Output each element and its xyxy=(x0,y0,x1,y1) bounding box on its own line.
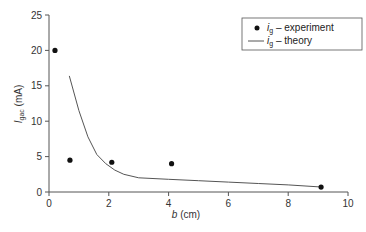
legend-marker-icon xyxy=(255,26,260,31)
svg-text:Igac (mA): Igac (mA) xyxy=(13,85,26,124)
svg-text:b (cm): b (cm) xyxy=(172,209,200,220)
y-axis-sub: gac xyxy=(18,109,26,121)
chart: 02468100510152025 b (cm) Igac (mA) ig – … xyxy=(0,0,366,232)
experiment-points xyxy=(52,48,323,190)
x-tick-label: 8 xyxy=(285,198,291,209)
x-tick-label: 6 xyxy=(226,198,232,209)
x-axis-label: b (cm) xyxy=(172,209,200,220)
theory-curve xyxy=(69,76,321,187)
data-point xyxy=(67,158,72,163)
y-tick-label: 10 xyxy=(31,116,43,127)
data-point xyxy=(169,161,174,166)
legend: ig – experiment ig – theory xyxy=(242,18,362,50)
x-tick-label: 0 xyxy=(46,198,52,209)
x-axis-unit: (cm) xyxy=(177,209,200,220)
data-point xyxy=(318,184,323,189)
x-tick-label: 10 xyxy=(342,198,354,209)
y-tick-label: 15 xyxy=(31,80,43,91)
data-point xyxy=(52,48,57,53)
x-tick-label: 4 xyxy=(166,198,172,209)
y-tick-label: 5 xyxy=(36,151,42,162)
y-axis-unit: (mA) xyxy=(13,85,24,109)
theory-line xyxy=(69,76,321,187)
y-tick-label: 25 xyxy=(31,10,43,21)
y-axis-label: Igac (mA) xyxy=(13,85,26,124)
x-tick-label: 2 xyxy=(106,198,112,209)
plot-area: 02468100510152025 b (cm) Igac (mA) ig – … xyxy=(0,0,366,232)
data-point xyxy=(109,160,114,165)
y-tick-label: 0 xyxy=(36,187,42,198)
y-tick-label: 20 xyxy=(31,45,43,56)
